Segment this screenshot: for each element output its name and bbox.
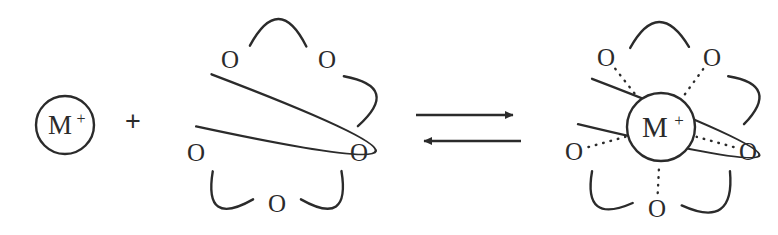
coordination-bond-dotted: [588, 137, 625, 147]
coordination-bond-dotted: [683, 69, 703, 97]
oxygen-right: O: [739, 138, 757, 165]
coordination-bond-dotted: [697, 137, 734, 147]
crown-ether-cation-complex: OOOOOM+: [0, 0, 778, 235]
coordination-bond-dotted: [615, 69, 638, 98]
oxygen-left: O: [565, 138, 583, 165]
oxygen-bottom: O: [648, 195, 666, 222]
ethylene-bridge-arc: [728, 76, 759, 124]
reaction-diagram-canvas: M + + OOOOO OOOOOM+: [0, 0, 778, 235]
coordination-bond-dotted: [658, 164, 659, 193]
ethylene-bridge-arc: [682, 171, 731, 212]
complexed-cation-charge-label: +: [674, 111, 684, 130]
ethylene-bridge-arc: [591, 171, 633, 209]
complexed-cation-element-label: M: [642, 111, 668, 143]
ethylene-bridge-arc: [630, 22, 689, 48]
oxygen-top-left: O: [597, 44, 615, 71]
oxygen-top-right: O: [703, 44, 721, 71]
